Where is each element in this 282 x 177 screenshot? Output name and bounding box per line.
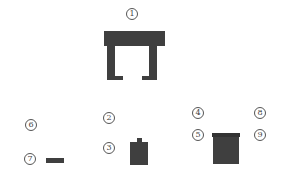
label-5-circle: 5 xyxy=(192,129,204,141)
label-4-circle: 4 xyxy=(192,107,204,119)
label-1-circle: 1 xyxy=(126,8,138,20)
bracket-left-foot xyxy=(107,76,123,80)
bracket-right-leg xyxy=(149,46,157,80)
label-2-circle: 2 xyxy=(103,112,115,124)
bracket-top-bar xyxy=(104,31,165,46)
part-7-bar xyxy=(46,158,64,163)
diagram-canvas: 1 2 3 4 5 6 7 8 9 xyxy=(0,0,282,177)
label-9-circle: 9 xyxy=(254,129,266,141)
container-body xyxy=(213,137,239,164)
bracket-left-leg xyxy=(107,46,115,80)
label-8-circle: 8 xyxy=(254,107,266,119)
label-6-circle: 6 xyxy=(25,119,37,131)
block-body xyxy=(130,142,148,165)
bracket-right-foot xyxy=(142,76,157,80)
label-7-circle: 7 xyxy=(24,153,36,165)
label-3-circle: 3 xyxy=(103,142,115,154)
